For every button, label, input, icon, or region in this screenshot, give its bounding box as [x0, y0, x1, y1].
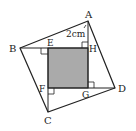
- shaded-square-EHGF: [48, 48, 88, 88]
- label-C: C: [44, 115, 52, 126]
- label-H: H: [89, 44, 97, 54]
- label-A: A: [84, 9, 93, 20]
- label-F: F: [39, 84, 45, 94]
- label-B: B: [9, 43, 16, 54]
- label-G: G: [82, 90, 89, 100]
- right-angle-marker-F: [48, 88, 54, 94]
- right-angle-marker-G: [88, 82, 94, 88]
- right-angle-marker-H: [82, 42, 88, 48]
- label-E: E: [47, 38, 54, 48]
- geometry-diagram: A B C D E H F G 2cm: [0, 0, 136, 131]
- measure-label-AH: 2cm: [66, 29, 86, 39]
- label-D: D: [118, 83, 126, 94]
- measure-tick-AH: [84, 25, 86, 28]
- right-angle-marker-E: [41, 48, 48, 54]
